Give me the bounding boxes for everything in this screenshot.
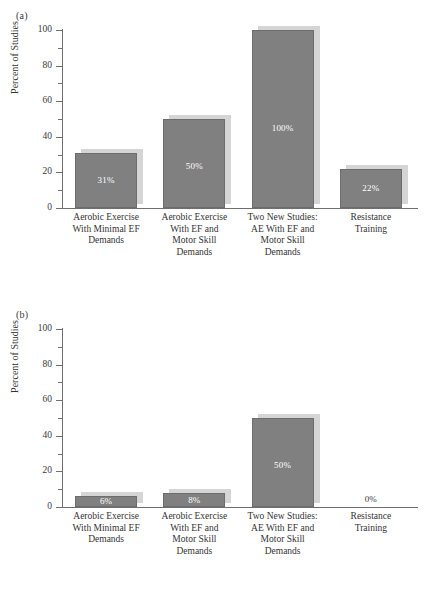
bar-value-label: 0% (340, 494, 402, 504)
y-tick-label: 100 (24, 323, 52, 333)
bar-value-label: 50% (163, 161, 225, 171)
bar-slot: 100% (252, 30, 314, 208)
bar-slot: 8% (163, 329, 225, 507)
bar-value-label: 22% (340, 183, 402, 193)
bar: 50% (252, 418, 314, 507)
bar-value-label: 31% (75, 175, 137, 185)
bar: 8% (163, 493, 225, 507)
x-axis-category-line: Training (316, 224, 426, 236)
y-tick-minor (58, 83, 62, 84)
y-tick-label: 80 (24, 60, 52, 70)
y-tick-minor (58, 48, 62, 49)
y-axis-title-b: Percent of Studies (9, 287, 20, 427)
y-tick-label: 60 (24, 394, 52, 404)
x-axis-category-line: Training (316, 523, 426, 535)
y-tick-minor (58, 382, 62, 383)
bar-group-b: 6%8%50%0% (62, 329, 415, 507)
y-tick-minor (58, 454, 62, 455)
bar: 50% (163, 119, 225, 208)
y-tick-major (56, 30, 62, 31)
y-tick-major (56, 137, 62, 138)
y-tick-minor (58, 347, 62, 348)
bar-slot: 50% (163, 30, 225, 208)
x-axis-category-line: Demands (228, 546, 338, 558)
bar-value-label: 100% (252, 123, 314, 133)
y-tick-major (56, 172, 62, 173)
y-tick-minor (58, 418, 62, 419)
x-axis-category-line: Resistance (316, 212, 426, 224)
bar: 100% (252, 30, 314, 208)
bar: 0% (340, 493, 402, 507)
bar-group-a: 31%50%100%22% (62, 30, 415, 208)
x-axis-labels-b: Aerobic ExerciseWith Minimal EFDemandsAe… (62, 511, 415, 591)
y-tick-label: 40 (24, 131, 52, 141)
y-tick-label: 20 (24, 166, 52, 176)
bar-slot: 50% (252, 329, 314, 507)
x-axis-labels-a: Aerobic ExerciseWith Minimal EFDemandsAe… (62, 212, 415, 292)
y-tick-major (56, 208, 62, 209)
y-tick-major (56, 329, 62, 330)
y-tick-major (56, 101, 62, 102)
x-axis-category-label: ResistanceTraining (316, 212, 426, 235)
x-axis-category-line: Motor Skill (228, 235, 338, 247)
y-tick-minor (58, 155, 62, 156)
y-tick-label: 60 (24, 95, 52, 105)
chart-panel-b: (b) Percent of Studies 6%8%50%0% 0204060… (0, 299, 429, 597)
bar-slot: 22% (340, 30, 402, 208)
x-axis-category-label: ResistanceTraining (316, 511, 426, 534)
chart-panel-a: (a) Percent of Studies 31%50%100%22% 020… (0, 0, 429, 298)
y-tick-major (56, 471, 62, 472)
y-tick-major (56, 400, 62, 401)
bar: 31% (75, 153, 137, 208)
y-axis-title-a: Percent of Studies (9, 0, 20, 128)
y-tick-major (56, 507, 62, 508)
x-axis-category-line: Motor Skill (228, 534, 338, 546)
y-tick-minor (58, 119, 62, 120)
plot-area-b: 6%8%50%0% (62, 329, 415, 507)
bar-value-label: 6% (75, 496, 137, 506)
bar-front (252, 30, 314, 208)
y-tick-label: 100 (24, 24, 52, 34)
bar: 22% (340, 169, 402, 208)
y-tick-label: 80 (24, 359, 52, 369)
bar-slot: 31% (75, 30, 137, 208)
y-tick-label: 20 (24, 465, 52, 475)
bar-value-label: 8% (163, 495, 225, 505)
x-axis-line-a (58, 208, 418, 209)
y-tick-minor (58, 489, 62, 490)
x-axis-line-b (58, 507, 418, 508)
x-axis-category-line: Demands (228, 247, 338, 259)
y-tick-minor (58, 190, 62, 191)
bar-slot: 6% (75, 329, 137, 507)
bar: 6% (75, 496, 137, 507)
y-tick-major (56, 365, 62, 366)
y-tick-label: 40 (24, 430, 52, 440)
y-tick-major (56, 66, 62, 67)
bar-value-label: 50% (252, 460, 314, 470)
x-axis-category-line: Resistance (316, 511, 426, 523)
plot-area-a: 31%50%100%22% (62, 30, 415, 208)
y-tick-label: 0 (24, 202, 52, 212)
bar-slot: 0% (340, 329, 402, 507)
y-tick-label: 0 (24, 501, 52, 511)
y-tick-major (56, 436, 62, 437)
